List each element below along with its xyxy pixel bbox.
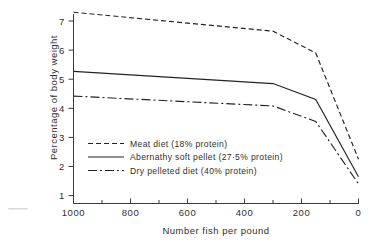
paper-smudge: [8, 208, 28, 210]
y-axis-title: Percentage of body weight: [48, 35, 59, 160]
y-tick-label-5: 5: [59, 74, 65, 85]
y-tick-label-4: 4: [59, 103, 65, 114]
line-chart: 7 6 5 4 3 2 1 Percentage of body weight …: [0, 0, 380, 248]
legend-label-dry-pelleted-diet: Dry pelleted diet (40% protein): [130, 166, 257, 176]
x-tick-label-800: 800: [122, 207, 140, 218]
y-tick-label-1: 1: [59, 190, 65, 201]
legend-label-abernathy-soft-pellet: Abernathy soft pellet (27·5% protein): [130, 152, 283, 162]
y-tick-label-7: 7: [59, 16, 65, 27]
y-tick-label-6: 6: [59, 45, 65, 56]
legend: Meat diet (18% protein) Abernathy soft p…: [88, 139, 283, 176]
series-line-meat-diet: [74, 12, 359, 159]
x-tick-label-1000: 1000: [62, 207, 86, 218]
x-tick-label-400: 400: [236, 207, 254, 218]
y-tick-label-2: 2: [59, 161, 65, 172]
x-tick-label-600: 600: [179, 207, 197, 218]
y-tick-label-3: 3: [59, 132, 65, 143]
x-tick-label-0: 0: [356, 207, 362, 218]
legend-label-meat-diet: Meat diet (18% protein): [130, 139, 227, 149]
chart-figure: 7 6 5 4 3 2 1 Percentage of body weight …: [0, 0, 380, 248]
x-tick-label-200: 200: [293, 207, 311, 218]
x-axis-title: Number fish per pound: [162, 225, 269, 236]
